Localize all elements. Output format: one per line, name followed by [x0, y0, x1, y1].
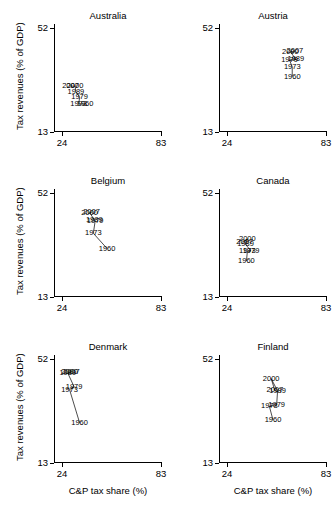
- data-point-label: 2000: [263, 375, 280, 383]
- small-multiples-figure: Australia52132483Tax revenues (% of GDP)…: [0, 0, 332, 509]
- data-point-label: 1979: [268, 401, 285, 409]
- panel-finland: Finland52132483C&P tax share (%)19601973…: [0, 0, 332, 509]
- data-point-label: 2007: [266, 386, 283, 394]
- series-path-finland: [0, 0, 332, 509]
- data-point-label: 1960: [265, 416, 282, 424]
